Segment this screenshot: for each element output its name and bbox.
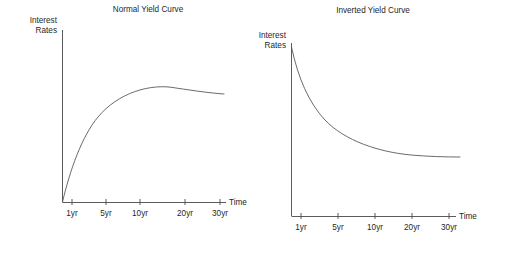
x-axis-label: Time	[459, 212, 477, 221]
yield-curve-line	[292, 47, 461, 157]
tick-label-20yr: 20yr	[404, 223, 420, 232]
tick-label-20yr: 20yr	[177, 209, 193, 218]
tick-label-5yr: 5yr	[100, 209, 112, 218]
chart-title: Normal Yield Curve	[113, 5, 184, 14]
x-axis-label: Time	[229, 198, 247, 207]
inverted-yield-curve-chart: Inverted Yield Curve Interest Rates 1yr …	[253, 0, 505, 256]
y-axis-label-line2: Rates	[265, 41, 286, 50]
tick-label-10yr: 10yr	[132, 209, 148, 218]
tick-label-30yr: 30yr	[441, 223, 457, 232]
tick-label-1yr: 1yr	[66, 209, 78, 218]
chart-title: Inverted Yield Curve	[336, 6, 410, 15]
normal-yield-curve-svg: Normal Yield Curve Interest Rates 1yr 5y…	[0, 0, 253, 256]
normal-yield-curve-chart: Normal Yield Curve Interest Rates 1yr 5y…	[0, 0, 253, 256]
tick-label-10yr: 10yr	[367, 223, 383, 232]
tick-label-1yr: 1yr	[295, 223, 307, 232]
inverted-yield-curve-svg: Inverted Yield Curve Interest Rates 1yr …	[253, 0, 505, 256]
tick-label-30yr: 30yr	[212, 209, 228, 218]
y-axis-label-line1: Interest	[259, 31, 287, 40]
tick-label-5yr: 5yr	[332, 223, 344, 232]
y-axis-label-line2: Rates	[36, 26, 57, 35]
y-axis-label-line1: Interest	[30, 16, 58, 25]
yield-curve-line	[63, 87, 225, 202]
